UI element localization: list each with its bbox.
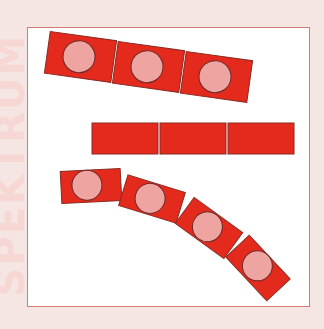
block-4	[226, 235, 290, 301]
block-1	[92, 123, 158, 154]
block-3	[175, 197, 242, 258]
block-2	[160, 123, 226, 154]
block-1	[60, 168, 122, 203]
block-1	[44, 31, 116, 82]
block-2	[119, 175, 186, 223]
curved-strip-with-circles	[60, 168, 290, 300]
tilted-strip-with-circles	[44, 31, 252, 102]
block-3	[228, 123, 294, 154]
block-3	[180, 51, 252, 102]
block-2	[112, 41, 184, 92]
blocks-diagram	[0, 0, 324, 329]
plain-strip	[92, 123, 294, 154]
